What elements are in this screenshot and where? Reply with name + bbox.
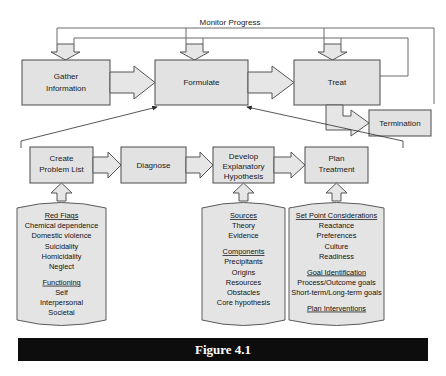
figure-caption-text: Figure 4.1	[195, 342, 251, 357]
develop-explanatory-hypothesis-box-group[interactable]: Develop Explanatory Hypothesis	[213, 147, 274, 183]
treat-box-group[interactable]: Treat	[294, 60, 380, 105]
bracket-line-left	[21, 107, 157, 148]
gather-information-label-line1: Gather	[54, 72, 79, 81]
flowchart-canvas: Monitor Progress Gather Information Form…	[0, 0, 446, 376]
plan-treatment-scroll-line-6: Goal Identification	[307, 268, 366, 277]
figure-4-1-diagram: Monitor Progress Gather Information Form…	[0, 0, 446, 376]
plan-treatment-scroll-line-0: Set Point Considerations	[296, 211, 378, 220]
arrow-problemlist-to-diagnose	[93, 152, 121, 178]
arrow-scroll-to-hypothesis	[233, 183, 254, 201]
formulate-label-line1: Formulate	[183, 78, 220, 87]
problem-list-scroll-line-7: Functioning	[42, 278, 80, 287]
problem-list-scroll-line-4: Homicidality	[42, 252, 82, 261]
plan-treatment-scroll-line-1: Reactance	[319, 221, 354, 230]
treat-label-line1: Treat	[328, 78, 347, 87]
hypothesis-scroll-line-7: Resources	[226, 278, 262, 287]
arrow-diagnose-to-hypothesis	[186, 152, 213, 178]
formulate-box-group[interactable]: Formulate	[155, 60, 248, 105]
problem-list-scroll-line-2: Domestic violence	[32, 231, 92, 240]
problem-list-scroll-line-8: Self	[55, 288, 69, 297]
gather-information-box[interactable]	[22, 60, 110, 105]
develop-hypothesis-line1: Develop	[229, 152, 259, 161]
plan-treatment-scroll-line-10: Plan Interventions	[307, 304, 366, 313]
feedback-arrowhead-formulate	[180, 44, 209, 60]
hypothesis-scroll-line-1: Theory	[232, 221, 255, 230]
feedback-arrowhead-gather	[51, 44, 80, 60]
plan-treatment-line1: Plan	[328, 154, 344, 163]
hypothesis-scroll-line-4: Components	[223, 247, 265, 256]
develop-hypothesis-line2: Explanatory	[222, 162, 264, 171]
hypothesis-scroll-line-2: Evidence	[228, 231, 258, 240]
create-problem-list-line1: Create	[49, 154, 74, 163]
plan-treatment-scroll-line-8: Short-term/Long-term goals	[291, 288, 382, 297]
plan-treatment-box-group[interactable]: Plan Treatment	[305, 147, 368, 183]
problem-list-scroll-line-0: Red Flags	[45, 211, 79, 220]
problem-list-scroll-line-9: Interpersonal	[40, 298, 83, 307]
problem-list-scroll-line-5: Neglect	[49, 262, 74, 271]
problem-list-scroll-line-10: Societal	[48, 308, 75, 317]
arrow-scroll-to-plantreatment	[326, 183, 347, 201]
termination-label: Termination	[379, 119, 420, 128]
develop-hypothesis-line3: Hypothesis	[224, 172, 264, 181]
plan-treatment-scroll-line-7: Process/Outcome goals	[297, 278, 376, 287]
create-problem-list-line2: Problem List	[39, 165, 84, 174]
plan-treatment-scroll-line-4: Readiness	[319, 252, 354, 261]
arrow-scroll-to-problemlist	[51, 183, 72, 201]
gather-information-box-group[interactable]: Gather Information	[22, 60, 110, 105]
arrow-formulate-to-treat	[248, 66, 294, 99]
create-problem-list-box-group[interactable]: Create Problem List	[30, 147, 93, 183]
problem-list-scroll-line-1: Chemical dependence	[25, 221, 99, 230]
hypothesis-scroll-line-6: Origins	[232, 268, 256, 277]
diagnose-box-group[interactable]: Diagnose	[121, 147, 186, 183]
hypothesis-scroll-line-9: Core hypothesis	[217, 298, 271, 307]
plan-treatment-line2: Treatment	[318, 165, 355, 174]
feedback-arrowhead-treat	[318, 44, 347, 60]
arrow-hypothesis-to-plantreatment	[274, 152, 305, 178]
hypothesis-scroll-line-8: Obstacles	[227, 288, 260, 297]
monitor-progress-label: Monitor Progress	[200, 18, 261, 27]
hypothesis-scroll-line-5: Precipitants	[224, 257, 263, 266]
arrow-gather-to-formulate	[110, 66, 155, 99]
plan-treatment-scroll-line-2: Preferences	[317, 231, 357, 240]
termination-box-group[interactable]: Termination	[369, 110, 431, 136]
diagnose-line1: Diagnose	[137, 161, 171, 170]
arrow-treat-to-termination	[326, 105, 369, 136]
hypothesis-scroll-line-0: Sources	[230, 211, 257, 220]
gather-information-label-line2: Information	[46, 84, 86, 93]
plan-treatment-scroll-line-3: Culture	[325, 242, 349, 251]
problem-list-scroll-line-3: Suicidality	[45, 242, 79, 251]
